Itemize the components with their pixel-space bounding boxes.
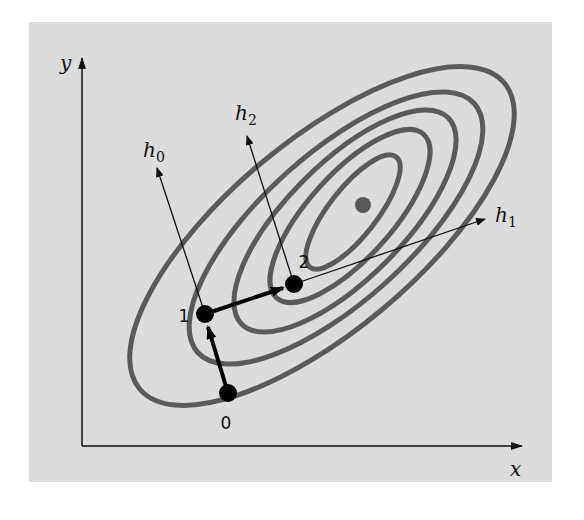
optimum-point: [355, 197, 371, 213]
point-2: [285, 275, 303, 293]
point-0: [219, 384, 237, 402]
figure-background: [29, 22, 552, 482]
x-axis-label: x: [510, 457, 521, 481]
point-1: [196, 305, 214, 323]
point-1-label: 1: [179, 306, 190, 326]
point-2-label: 2: [299, 252, 310, 272]
y-axis-label: y: [59, 51, 72, 75]
conjugate-directions-diagram: y x h0 h2 h1 0 1 2: [0, 0, 584, 520]
point-0-label: 0: [221, 413, 232, 433]
